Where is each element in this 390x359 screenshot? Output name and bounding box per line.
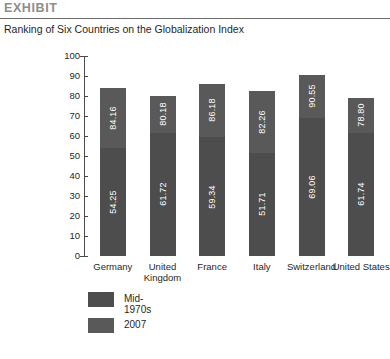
y-axis-tick-label: 80 <box>54 91 80 101</box>
bar-segment-2007[interactable]: 80.18 <box>150 96 176 133</box>
y-axis-tick-label: 60 <box>54 131 80 141</box>
legend-label: 2007 <box>124 319 146 330</box>
bar-segment-2007[interactable]: 78.80 <box>348 98 374 132</box>
bar-group[interactable]: 80.1861.72 <box>150 96 176 256</box>
x-axis-label: United States <box>330 261 390 272</box>
chart-plot-area: 0102030405060708090100 84.1654.2580.1861… <box>0 40 390 280</box>
bar-segment-2007[interactable]: 86.18 <box>199 84 225 138</box>
y-axis-tick-label: 20 <box>54 211 80 221</box>
legend-color-swatch <box>88 292 114 307</box>
y-axis-tick-label: 70 <box>54 111 80 121</box>
exhibit-label: EXHIBIT <box>4 1 58 15</box>
bar-segment-mid-1970s[interactable]: 69.06 <box>299 118 325 256</box>
bar-segment-mid-1970s[interactable]: 51.71 <box>249 153 275 256</box>
bar-segment-mid-1970s[interactable]: 54.25 <box>100 148 126 257</box>
bar-segment-mid-1970s[interactable]: 59.34 <box>199 137 225 256</box>
bar-group[interactable]: 82.2651.71 <box>249 91 275 256</box>
bar-segment-2007[interactable]: 90.55 <box>299 75 325 118</box>
bar-segment-2007[interactable]: 82.26 <box>249 91 275 152</box>
chart-title: Ranking of Six Countries on the Globaliz… <box>4 23 244 35</box>
legend-color-swatch <box>88 318 114 333</box>
bar-group[interactable]: 86.1859.34 <box>199 84 225 256</box>
y-axis-tick <box>84 256 88 257</box>
bar-value-label: 84.16 <box>108 106 118 130</box>
bar-group[interactable]: 78.8061.74 <box>348 98 374 256</box>
y-axis-tick-label: 90 <box>54 71 80 81</box>
y-axis-tick-label: 30 <box>54 191 80 201</box>
bar-value-label: 51.71 <box>257 193 267 217</box>
bar-value-label: 86.18 <box>207 99 217 123</box>
bar-segment-mid-1970s[interactable]: 61.72 <box>150 133 176 256</box>
bar-series-container: 84.1654.2580.1861.7286.1859.3482.2651.71… <box>88 56 386 256</box>
y-axis-tick-label: 100 <box>54 51 80 61</box>
bar-value-label: 59.34 <box>207 185 217 209</box>
y-axis-tick-label: 40 <box>54 171 80 181</box>
header-divider <box>0 18 390 19</box>
y-axis-tick-label: 10 <box>54 231 80 241</box>
bar-value-label: 54.25 <box>108 190 118 214</box>
bar-group[interactable]: 84.1654.25 <box>100 88 126 256</box>
bar-segment-2007[interactable]: 84.16 <box>100 88 126 148</box>
bar-value-label: 69.06 <box>307 175 317 199</box>
legend-label: Mid-1970s <box>124 293 151 315</box>
bar-value-label: 61.72 <box>158 183 168 207</box>
bar-value-label: 78.80 <box>356 104 366 128</box>
bar-value-label: 90.55 <box>307 85 317 109</box>
bar-group[interactable]: 90.5569.06 <box>299 75 325 256</box>
bar-value-label: 82.26 <box>257 110 267 134</box>
y-axis-tick-label: 50 <box>54 151 80 161</box>
bar-segment-mid-1970s[interactable]: 61.74 <box>348 133 374 256</box>
bar-value-label: 61.74 <box>356 183 366 207</box>
bar-value-label: 80.18 <box>158 102 168 126</box>
y-axis-tick-label: 0 <box>54 251 80 261</box>
